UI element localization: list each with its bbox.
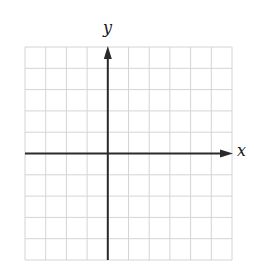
x-axis-label: x — [237, 143, 246, 159]
x-axis-arrow-icon — [220, 150, 233, 158]
y-axis-label: y — [103, 20, 112, 36]
coordinate-plane — [0, 0, 254, 268]
y-axis-arrow-icon — [104, 46, 112, 59]
